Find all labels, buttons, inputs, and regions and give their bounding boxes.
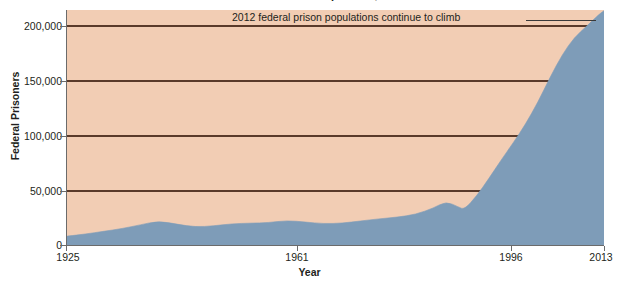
x-tick-label-1961: 1961 xyxy=(285,252,308,263)
y-axis-tick-labels: 200,000 150,000 100,000 50,000 0 Federal… xyxy=(0,0,62,287)
x-tick-label-2013: 2013 xyxy=(589,252,612,263)
area-series-federal-prisoners xyxy=(67,10,604,246)
y-tick-label-200000: 200,000 xyxy=(6,21,62,32)
plot-area xyxy=(66,10,604,246)
x-axis-tick-labels: 1925 1961 1996 2013 xyxy=(0,248,619,266)
area-chart-svg xyxy=(67,10,604,246)
annotation-leader-line xyxy=(526,20,596,21)
chart-title-cropped: Federal Prison Population, 1925-2013 xyxy=(66,0,604,9)
y-axis-title: Federal Prisoners xyxy=(9,68,21,164)
y-tick-label-50000: 50,000 xyxy=(6,186,62,197)
chart-figure: Federal Prison Population, 1925-2013 200… xyxy=(0,0,619,287)
annotation-label: 2012 federal prison populations continue… xyxy=(232,11,460,23)
x-tick-label-1996: 1996 xyxy=(499,252,522,263)
x-axis-title: Year xyxy=(0,266,619,278)
chart-title-text: Federal Prison Population, 1925-2013 xyxy=(66,0,604,1)
x-tick-label-1925: 1925 xyxy=(56,252,79,263)
